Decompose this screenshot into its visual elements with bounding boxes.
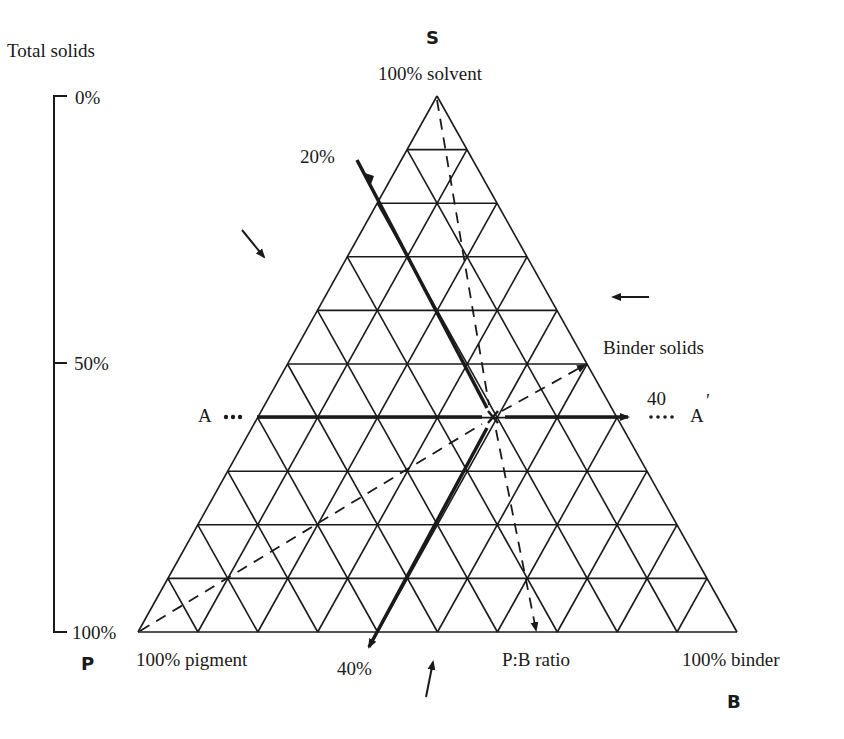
vertex-s-letter: S (426, 29, 439, 47)
line-a-right-label: A (690, 406, 704, 425)
binder-solids-label: Binder solids (603, 338, 704, 357)
total-solids-tick-0: 0% (75, 88, 100, 107)
total-solids-title: Total solids (7, 41, 95, 60)
vertex-p-label: 100% pigment (136, 650, 247, 669)
pigment-line-40-label: 40% (337, 659, 372, 678)
total-solids-tick-50: 50% (74, 354, 109, 373)
vertex-s-label: 100% solvent (378, 64, 482, 83)
arrow-icon-pointing-to-base (426, 662, 433, 697)
triangle-grid (138, 96, 737, 632)
pigment-line-20-label: 20% (300, 147, 335, 166)
pigment-line-upper (357, 160, 487, 408)
vertex-b-letter: B (727, 693, 741, 711)
pb-ratio-label: P:B ratio (502, 650, 570, 669)
pointer-arrows (242, 230, 649, 697)
ternary-diagram (0, 0, 844, 739)
line-a-prime-mark: ′ (706, 391, 710, 410)
arrow-icon-pointing-to-left-edge (242, 230, 264, 257)
vertex-p-letter: P (81, 655, 94, 673)
total-solids-axis (54, 96, 67, 632)
binder-value-40-label: 40 (647, 389, 666, 408)
total-solids-tick-100: 100% (72, 623, 116, 642)
line-a-left-label: A (198, 406, 212, 425)
vertex-b-label: 100% binder (682, 650, 780, 669)
